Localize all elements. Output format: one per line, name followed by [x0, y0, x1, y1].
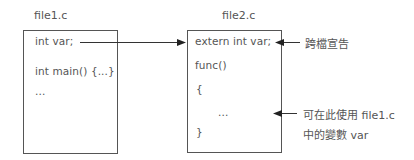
arrow-declaration-annotation	[275, 39, 300, 46]
arrows-layer	[0, 0, 414, 160]
arrow-file1-to-file2	[80, 39, 186, 46]
arrow-usage-annotation	[273, 110, 297, 117]
